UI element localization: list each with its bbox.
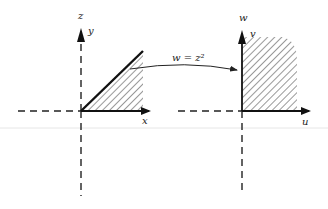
u-axis-label: u <box>302 116 308 127</box>
y-axis-label: y <box>87 25 94 36</box>
x-axis-label: x <box>142 115 148 126</box>
y-arrow-icon <box>77 28 85 42</box>
v-axis-label: v <box>250 28 256 39</box>
z-plane-label: z <box>77 10 84 21</box>
quadrant-region <box>242 37 297 111</box>
w-plane-label: w <box>239 12 248 23</box>
conformal-map-diagram: z y x w = z² w v u <box>0 0 328 209</box>
mapping-label: w = z² <box>172 52 205 63</box>
w-plane: w v u <box>178 12 309 193</box>
z-plane: z y x <box>18 10 149 196</box>
mapping-curve <box>130 65 237 70</box>
mapping-arrow: w = z² <box>130 52 237 70</box>
